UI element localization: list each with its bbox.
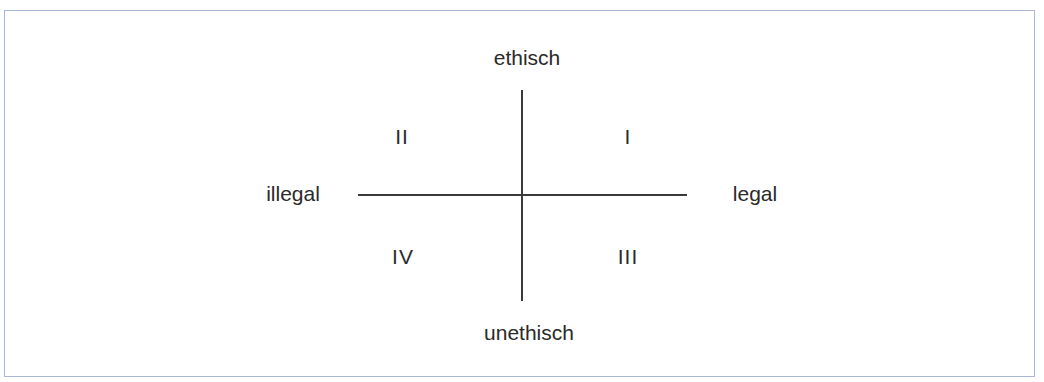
vertical-axis-line — [521, 90, 523, 301]
axis-label-bottom: unethisch — [484, 321, 574, 345]
axis-label-top: ethisch — [494, 46, 561, 70]
axis-label-right: legal — [733, 182, 777, 206]
quadrant-label-bottom-left: IV — [392, 245, 414, 269]
axis-label-left: illegal — [266, 182, 320, 206]
quadrant-label-top-left: II — [395, 125, 409, 149]
quadrant-label-top-right: I — [625, 125, 632, 149]
horizontal-axis-line — [358, 194, 687, 196]
quadrant-label-bottom-right: III — [618, 245, 639, 269]
